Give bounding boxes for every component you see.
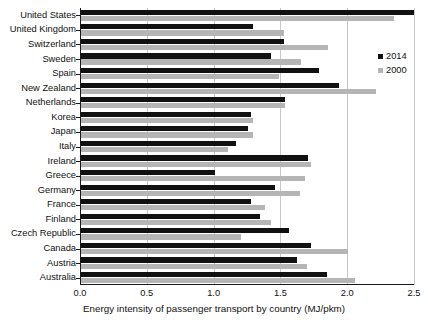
y-axis-tick bbox=[76, 234, 80, 235]
bar-2014 bbox=[81, 214, 260, 219]
bar-2000 bbox=[81, 220, 271, 225]
bar-2000 bbox=[81, 278, 355, 283]
legend-swatch-icon bbox=[378, 68, 383, 73]
bar-group bbox=[81, 37, 414, 52]
bar-2000 bbox=[81, 59, 301, 64]
bar-2014 bbox=[81, 24, 253, 29]
bar-2014 bbox=[81, 243, 311, 248]
bar-2000 bbox=[81, 249, 348, 254]
plot-area bbox=[80, 8, 414, 285]
x-tick-label: 1.5 bbox=[260, 288, 300, 298]
category-label: Netherlands bbox=[0, 97, 76, 107]
bar-2014 bbox=[81, 53, 271, 58]
y-axis-tick bbox=[76, 161, 80, 162]
category-label: United States bbox=[0, 10, 76, 20]
bar-group bbox=[81, 23, 414, 38]
category-label: France bbox=[0, 199, 76, 209]
bar-2000 bbox=[81, 74, 279, 79]
bar-2000 bbox=[81, 30, 284, 35]
bar-2000 bbox=[81, 191, 300, 196]
x-axis-line bbox=[80, 284, 414, 285]
bar-2014 bbox=[81, 68, 319, 73]
bar-group bbox=[81, 241, 414, 256]
category-label: Germany bbox=[0, 185, 76, 195]
y-axis-tick bbox=[76, 117, 80, 118]
bar-group bbox=[81, 125, 414, 140]
bar-group bbox=[81, 198, 414, 213]
bar-rows bbox=[80, 8, 414, 285]
y-axis-tick bbox=[76, 88, 80, 89]
y-axis-tick bbox=[76, 59, 80, 60]
bar-group bbox=[81, 66, 414, 81]
y-axis-tick bbox=[76, 176, 80, 177]
y-axis-tick bbox=[76, 263, 80, 264]
bar-2014 bbox=[81, 112, 251, 117]
y-axis-tick bbox=[76, 205, 80, 206]
y-axis-tick bbox=[76, 249, 80, 250]
bar-group bbox=[81, 81, 414, 96]
category-label: Switzerland bbox=[0, 39, 76, 49]
bar-group bbox=[81, 227, 414, 242]
bar-2000 bbox=[81, 205, 265, 210]
y-axis-line bbox=[80, 8, 81, 285]
category-label: Korea bbox=[0, 112, 76, 122]
bar-2014 bbox=[81, 141, 236, 146]
bar-2000 bbox=[81, 89, 376, 94]
bar-2014 bbox=[81, 83, 339, 88]
y-axis-tick bbox=[76, 278, 80, 279]
bar-2014 bbox=[81, 97, 285, 102]
bar-2000 bbox=[81, 162, 311, 167]
bar-2014 bbox=[81, 272, 327, 277]
bar-2000 bbox=[81, 264, 307, 269]
legend-entry: 2000 bbox=[378, 63, 407, 77]
category-label: Ireland bbox=[0, 156, 76, 166]
category-label: United Kingdom bbox=[0, 24, 76, 34]
y-axis-tick bbox=[76, 74, 80, 75]
bar-group bbox=[81, 139, 414, 154]
bar-group bbox=[81, 95, 414, 110]
y-axis-tick bbox=[76, 219, 80, 220]
legend-label: 2000 bbox=[386, 65, 407, 75]
bar-2000 bbox=[81, 45, 328, 50]
bar-2000 bbox=[81, 16, 394, 21]
bar-2014 bbox=[81, 10, 414, 15]
y-axis-tick bbox=[76, 44, 80, 45]
bar-group bbox=[81, 183, 414, 198]
bar-2000 bbox=[81, 234, 241, 239]
gridline-2.5 bbox=[414, 8, 415, 285]
legend-swatch-icon bbox=[378, 54, 383, 59]
bar-group bbox=[81, 52, 414, 67]
x-tick-label: 0.5 bbox=[127, 288, 167, 298]
bar-2000 bbox=[81, 132, 253, 137]
y-axis-tick bbox=[76, 147, 80, 148]
x-tick-label: 2.5 bbox=[394, 288, 428, 298]
bar-2014 bbox=[81, 126, 248, 131]
bar-group bbox=[81, 270, 414, 285]
category-label: Sweden bbox=[0, 54, 76, 64]
bar-2000 bbox=[81, 176, 305, 181]
category-label: Italy bbox=[0, 141, 76, 151]
bar-group bbox=[81, 256, 414, 271]
bar-2014 bbox=[81, 257, 297, 262]
chart-legend: 20142000 bbox=[378, 49, 407, 77]
y-axis-tick bbox=[76, 190, 80, 191]
bar-2014 bbox=[81, 39, 284, 44]
bar-2014 bbox=[81, 199, 251, 204]
category-label: Austria bbox=[0, 258, 76, 268]
x-tick-label: 0.0 bbox=[60, 288, 100, 298]
category-label: Finland bbox=[0, 214, 76, 224]
category-label: New Zealand bbox=[0, 83, 76, 93]
x-tick-label: 2.0 bbox=[327, 288, 367, 298]
y-axis-tick bbox=[76, 15, 80, 16]
x-tick-label: 1.0 bbox=[194, 288, 234, 298]
bar-group bbox=[81, 212, 414, 227]
bar-group bbox=[81, 8, 414, 23]
category-label: Australia bbox=[0, 272, 76, 282]
bar-chart: United StatesUnited KingdomSwitzerlandSw… bbox=[0, 0, 428, 327]
category-label: Czech Republic bbox=[0, 228, 76, 238]
bar-2014 bbox=[81, 155, 308, 160]
bar-2000 bbox=[81, 118, 253, 123]
bar-2000 bbox=[81, 147, 228, 152]
bar-group bbox=[81, 110, 414, 125]
y-axis-tick bbox=[76, 132, 80, 133]
